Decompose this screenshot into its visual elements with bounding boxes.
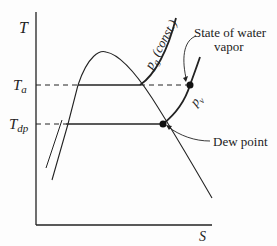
pg-label: pg (const.) bbox=[141, 17, 182, 73]
saturation-dome bbox=[52, 52, 212, 198]
dew-point-marker bbox=[160, 121, 167, 128]
diagram-svg: T S Ta Tdp pg (const.) pv State of water… bbox=[0, 0, 277, 246]
ts-diagram: T S Ta Tdp pg (const.) pv State of water… bbox=[0, 0, 277, 246]
state-annotation-line1: State of water bbox=[194, 25, 267, 40]
tdp-label: Tdp bbox=[9, 116, 29, 134]
y-axis-label: T bbox=[19, 19, 29, 36]
dew-point-annotation: Dew point bbox=[213, 134, 268, 149]
liquid-line bbox=[46, 120, 62, 168]
state-annotation-line2: vapor bbox=[214, 39, 244, 54]
pv-label: pv bbox=[186, 91, 206, 111]
ta-label: Ta bbox=[13, 77, 27, 95]
state-point bbox=[187, 82, 194, 89]
pv-curve bbox=[163, 57, 200, 124]
x-axis-label: S bbox=[199, 229, 206, 244]
